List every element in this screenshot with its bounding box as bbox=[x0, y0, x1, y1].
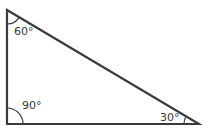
triangle-svg: 60° 90° 30° bbox=[0, 0, 202, 130]
angle-arc-top bbox=[7, 17, 19, 24]
angle-arc-right-angle bbox=[7, 108, 23, 124]
angle-label-bottom-right: 30° bbox=[160, 111, 180, 124]
angle-label-top: 60° bbox=[14, 25, 34, 38]
triangle-diagram: 60° 90° 30° bbox=[0, 0, 202, 130]
angle-label-right-angle: 90° bbox=[22, 99, 42, 112]
